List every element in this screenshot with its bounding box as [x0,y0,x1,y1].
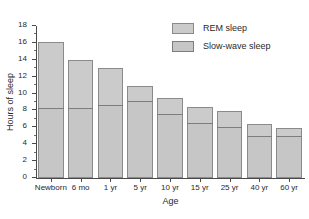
y-axis-minor-tick [34,84,36,85]
y-axis-minor-tick [34,67,36,68]
y-axis-minor-tick [34,101,36,102]
x-axis-tick-label: 15 yr [191,183,209,192]
x-axis-tick-label: 10 yr [161,183,179,192]
x-axis-tick [230,178,231,182]
bar-25-yr [217,111,243,178]
y-axis-tick: 14 [32,59,36,60]
x-axis-tick-label: 60 yr [280,183,298,192]
y-axis-tick-label: 18 [18,21,27,29]
x-axis-tick [81,178,82,182]
sleep-stages-bar-chart: Hours of sleep 024681012141618Newborn6 m… [0,0,309,219]
x-axis-tick-label: 6 mo [72,183,90,192]
bar-60-yr [276,128,302,178]
y-axis-tick-label: 8 [23,105,27,113]
bar-segment-divider [157,114,183,115]
y-axis-minor-tick [34,118,36,119]
y-axis-tick-label: 4 [23,139,27,147]
bar-segment-slow-wave [128,102,152,177]
y-axis-tick-label: 6 [23,122,27,130]
legend-swatch-rem-sleep [172,23,194,34]
y-axis-minor-tick [34,50,36,51]
y-axis-minor-tick [34,169,36,170]
x-axis-tick [110,178,111,182]
y-axis-tick-label: 12 [18,72,27,80]
bar-40-yr [247,124,273,178]
y-axis-tick-label: 16 [18,38,27,46]
y-axis-tick: 6 [32,126,36,127]
x-axis-tick-label: Newborn [35,183,67,192]
x-axis-tick-label: 5 yr [134,183,147,192]
y-axis-tick: 18 [32,25,36,26]
legend-label-rem-sleep: REM sleep [203,23,247,33]
y-axis-minor-tick [34,33,36,34]
bar-segment-divider [217,127,243,128]
bar-segment-slow-wave [277,137,301,177]
bar-10-yr [157,98,183,178]
x-axis-tick [170,178,171,182]
figure-caption [0,213,309,219]
y-axis-tick: 12 [32,76,36,77]
x-axis-tick [259,178,260,182]
bar-segment-divider [127,101,153,102]
bar-segment-slow-wave [248,137,272,177]
legend-swatch-slow-wave-sleep [172,41,194,52]
bar-segment-divider [38,108,64,109]
x-axis-tick-label: 40 yr [250,183,268,192]
bar-segment-slow-wave [69,109,93,177]
y-axis-tick-label: 2 [23,156,27,164]
bar-segment-divider [68,108,94,109]
bar-1-yr [98,68,124,178]
x-axis-tick [289,178,290,182]
legend-label-slow-wave-sleep: Slow-wave sleep [203,41,271,51]
bar-segment-slow-wave [188,124,212,177]
bar-6-mo [68,60,94,178]
x-axis-tick [200,178,201,182]
bar-newborn [38,42,64,178]
x-axis-tick-label: 25 yr [221,183,239,192]
bar-segment-slow-wave [39,109,63,177]
legend-item-slow-wave-sleep: Slow-wave sleep [172,39,304,53]
y-axis-tick: 10 [32,93,36,94]
x-axis-tick-label: 1 yr [104,183,117,192]
y-axis-tick: 16 [32,42,36,43]
y-axis-minor-tick [34,135,36,136]
y-axis-tick-label: 0 [23,173,27,181]
bar-15-yr [187,107,213,178]
y-axis-tick-label: 10 [18,89,27,97]
bar-segment-divider [276,136,302,137]
y-axis-tick-label: 14 [18,55,27,63]
x-axis-title: Age [36,196,305,206]
x-axis-tick [140,178,141,182]
chart-legend: REM sleep Slow-wave sleep [172,21,304,57]
bar-segment-slow-wave [218,128,242,177]
y-axis-tick: 2 [32,160,36,161]
y-axis-tick: 0 [32,177,36,178]
bar-5-yr [127,86,153,178]
x-axis-tick [51,178,52,182]
bar-segment-divider [98,105,124,106]
bar-segment-slow-wave [99,106,123,177]
y-axis-tick: 8 [32,109,36,110]
bar-segment-divider [187,123,213,124]
y-axis-minor-tick [34,152,36,153]
legend-item-rem-sleep: REM sleep [172,21,304,35]
y-axis-title: Hours of sleep [5,73,15,131]
bar-segment-slow-wave [158,115,182,177]
bar-segment-divider [247,136,273,137]
y-axis-tick: 4 [32,143,36,144]
